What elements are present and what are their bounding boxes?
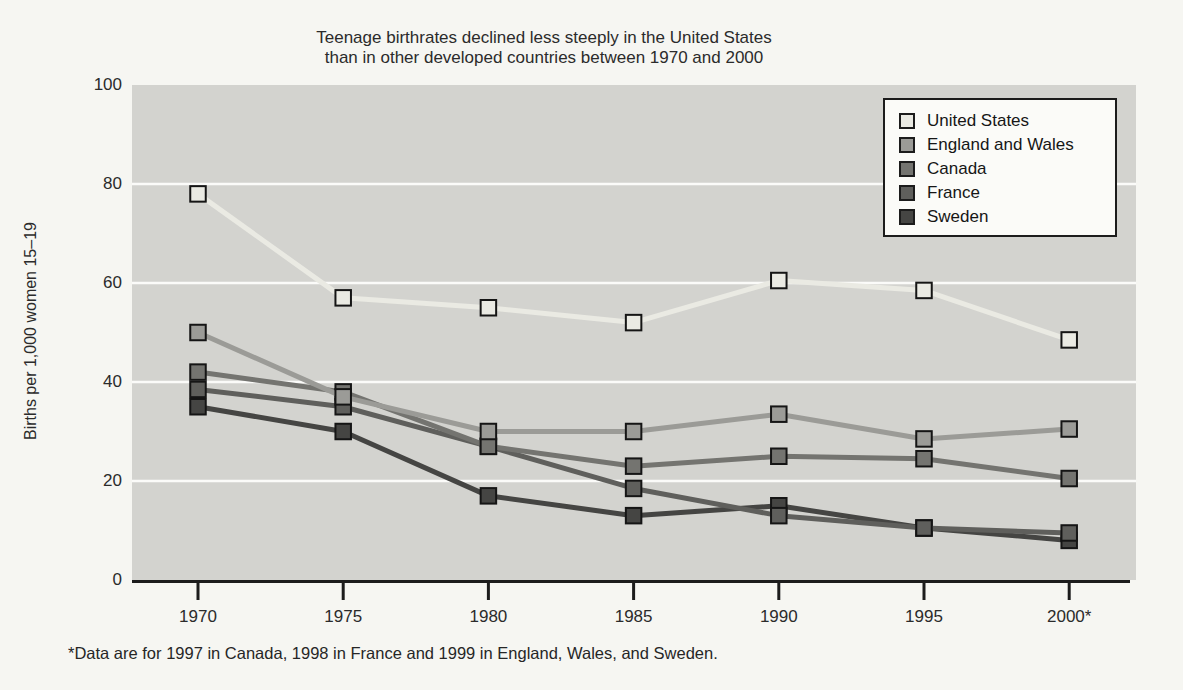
- legend-swatch-icon: [899, 185, 915, 201]
- y-tick-label-40: 40: [0, 372, 122, 392]
- marker-canada: [481, 439, 497, 455]
- y-axis-label: Births per 1,000 women 15–19: [22, 201, 40, 461]
- marker-england-and-wales: [481, 424, 497, 440]
- marker-united-states: [481, 300, 497, 316]
- marker-canada: [916, 451, 932, 467]
- marker-england-and-wales: [771, 406, 787, 422]
- legend-label: Canada: [927, 159, 987, 179]
- legend-item-canada: Canada: [899, 157, 1115, 181]
- marker-england-and-wales: [916, 431, 932, 447]
- x-tick-label-1995: 1995: [879, 607, 969, 627]
- marker-canada: [771, 449, 787, 465]
- marker-france: [771, 508, 787, 524]
- chart-page: Teenage birthrates declined less steeply…: [0, 0, 1183, 690]
- x-tick-label-1985: 1985: [589, 607, 679, 627]
- y-tick-label-20: 20: [0, 471, 122, 491]
- marker-united-states: [626, 315, 642, 331]
- legend-item-england-and-wales: England and Wales: [899, 133, 1115, 157]
- y-tick-label-80: 80: [0, 174, 122, 194]
- marker-sweden: [481, 488, 497, 504]
- legend-swatch-icon: [899, 113, 915, 129]
- x-tick-label-1980: 1980: [443, 607, 533, 627]
- x-tick-label-1970: 1970: [153, 607, 243, 627]
- chart-title-line2: than in other developed countries betwee…: [0, 48, 1088, 68]
- legend-swatch-icon: [899, 209, 915, 225]
- legend: United StatesEngland and WalesCanadaFran…: [883, 98, 1117, 237]
- legend-swatch-icon: [899, 161, 915, 177]
- footnote: *Data are for 1997 in Canada, 1998 in Fr…: [68, 644, 718, 663]
- marker-canada: [626, 458, 642, 474]
- x-tick-label-1990: 1990: [734, 607, 824, 627]
- y-tick-label-100: 100: [0, 75, 122, 95]
- marker-united-states: [916, 283, 932, 299]
- marker-france: [190, 382, 206, 398]
- marker-canada: [1061, 471, 1077, 487]
- legend-swatch-icon: [899, 137, 915, 153]
- legend-label: United States: [927, 111, 1029, 131]
- y-tick-label-60: 60: [0, 273, 122, 293]
- y-tick-label-0: 0: [0, 570, 122, 590]
- marker-sweden: [190, 399, 206, 415]
- marker-france: [1061, 525, 1077, 541]
- marker-canada: [190, 364, 206, 380]
- x-tick-label-1975: 1975: [298, 607, 388, 627]
- legend-label: France: [927, 183, 980, 203]
- marker-france: [916, 520, 932, 536]
- chart-title-line1: Teenage birthrates declined less steeply…: [0, 28, 1088, 48]
- legend-item-france: France: [899, 181, 1115, 205]
- marker-france: [626, 481, 642, 497]
- marker-united-states: [771, 273, 787, 289]
- legend-item-united-states: United States: [899, 109, 1115, 133]
- marker-sweden: [626, 508, 642, 524]
- marker-england-and-wales: [626, 424, 642, 440]
- chart-title: Teenage birthrates declined less steeply…: [0, 28, 1088, 68]
- legend-label: Sweden: [927, 207, 988, 227]
- legend-item-sweden: Sweden: [899, 205, 1115, 229]
- marker-united-states: [1061, 332, 1077, 348]
- marker-sweden: [335, 424, 351, 440]
- marker-united-states: [190, 186, 206, 202]
- legend-label: England and Wales: [927, 135, 1074, 155]
- marker-united-states: [335, 290, 351, 306]
- marker-england-and-wales: [190, 325, 206, 341]
- marker-england-and-wales: [335, 389, 351, 405]
- x-tick-label-2000: 2000*: [1024, 607, 1114, 627]
- marker-england-and-wales: [1061, 421, 1077, 437]
